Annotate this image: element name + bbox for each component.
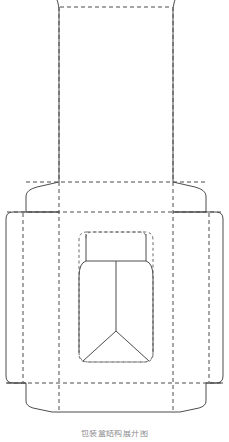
bottle-base-vee-left	[83, 331, 116, 361]
bottle-window-base-dashed	[79, 352, 153, 362]
top-shoulder-group	[26, 182, 206, 212]
bottom-flap-cut	[26, 383, 206, 412]
dieline-drawing: 包装盒结构展开图	[0, 0, 229, 442]
fold-lines-group	[7, 7, 222, 412]
dieline-canvas	[0, 0, 229, 442]
top-flap-group	[53, 0, 179, 182]
bottom-flap-group	[26, 383, 206, 412]
top-shoulder-right-cut	[173, 182, 206, 212]
bottle-body-left-shoulder	[79, 261, 86, 352]
top-flap-right-cut	[173, 0, 179, 182]
main-body-group	[6, 212, 223, 383]
bottle-body-right-shoulder	[146, 261, 153, 352]
bottle-neck-top-dashed	[86, 232, 146, 238]
top-shoulder-left-cut	[26, 182, 59, 212]
main-body-outline-cut	[6, 212, 223, 383]
caption-text: 包装盒结构展开图	[81, 430, 148, 438]
bottle-window-group	[79, 232, 153, 362]
bottle-neck-cut	[86, 234, 146, 261]
bottle-base-vee-right	[116, 331, 149, 361]
caption-row: 包装盒结构展开图	[0, 430, 229, 442]
top-flap-left-cut	[53, 0, 59, 182]
